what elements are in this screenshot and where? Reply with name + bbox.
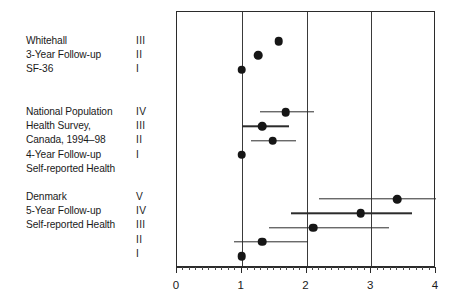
study-label-text: Whitehall xyxy=(26,34,67,48)
x-tick-label: 2 xyxy=(302,279,308,291)
study-label-group: WhitehallIII3-Year Follow-upIISF-36I xyxy=(0,34,176,77)
study-label-text: SF-36 xyxy=(26,62,53,76)
x-tick-minor xyxy=(422,267,423,270)
level-numeral: I xyxy=(136,247,139,261)
level-numeral: I xyxy=(136,148,139,162)
x-axis: 01234 xyxy=(176,267,435,307)
x-tick-minor xyxy=(325,267,326,270)
estimate-marker xyxy=(237,151,246,160)
x-tick-minor xyxy=(396,267,397,270)
level-numeral: III xyxy=(136,119,145,133)
gridline-x-1 xyxy=(242,12,243,266)
level-numeral: IV xyxy=(136,105,146,119)
plot-area xyxy=(176,11,435,267)
confidence-interval-bar xyxy=(269,227,389,228)
level-numeral: V xyxy=(136,190,143,204)
x-tick-minor xyxy=(208,267,209,270)
estimate-marker xyxy=(393,195,402,204)
x-tick-minor xyxy=(403,267,404,270)
x-tick-minor xyxy=(377,267,378,270)
x-tick-major xyxy=(176,267,177,273)
estimate-marker xyxy=(309,223,318,232)
x-tick-minor xyxy=(293,267,294,270)
level-numeral: II xyxy=(136,133,142,147)
level-numeral: II xyxy=(136,48,142,62)
estimate-marker xyxy=(237,252,246,261)
forest-plot-figure: WhitehallIII3-Year Follow-upIISF-36INati… xyxy=(0,0,455,307)
x-tick-minor xyxy=(195,267,196,270)
x-tick-minor xyxy=(247,267,248,270)
estimate-marker xyxy=(269,136,278,145)
x-tick-major xyxy=(241,267,242,273)
x-tick-minor xyxy=(280,267,281,270)
study-label-text: Self-reported Health xyxy=(26,162,115,176)
estimate-marker xyxy=(274,37,283,46)
x-tick-minor xyxy=(338,267,339,270)
x-tick-minor xyxy=(260,267,261,270)
estimate-marker xyxy=(281,108,290,117)
level-numeral: III xyxy=(136,34,145,48)
x-tick-minor xyxy=(357,267,358,270)
x-tick-major xyxy=(370,267,371,273)
x-tick-minor xyxy=(189,267,190,270)
study-label-text: Health Survey, xyxy=(26,119,91,133)
x-tick-label: 3 xyxy=(367,279,373,291)
study-label-row: Self-reported Health xyxy=(0,162,176,176)
study-label-row: 3-Year Follow-upII xyxy=(0,48,176,62)
study-label-text: 4-Year Follow-up xyxy=(26,148,101,162)
study-label-text: 5-Year Follow-up xyxy=(26,204,101,218)
study-label-row: SF-36I xyxy=(0,62,176,76)
study-label-row: Health Survey,III xyxy=(0,119,176,133)
x-tick-label: 0 xyxy=(173,279,179,291)
x-tick-minor xyxy=(286,267,287,270)
x-tick-minor xyxy=(273,267,274,270)
estimate-marker xyxy=(237,65,246,74)
study-label-text: Denmark xyxy=(26,190,67,204)
estimate-marker xyxy=(258,122,267,131)
study-label-text: 3-Year Follow-up xyxy=(26,48,101,62)
x-tick-minor xyxy=(351,267,352,270)
x-tick-major xyxy=(306,267,307,273)
x-tick-minor xyxy=(318,267,319,270)
x-tick-minor xyxy=(234,267,235,270)
level-numeral: I xyxy=(136,62,139,76)
x-tick-minor xyxy=(416,267,417,270)
x-tick-minor xyxy=(429,267,430,270)
x-tick-minor xyxy=(383,267,384,270)
x-tick-minor xyxy=(409,267,410,270)
estimate-marker xyxy=(254,51,263,60)
study-label-text: Canada, 1994–98 xyxy=(26,133,106,147)
confidence-interval-bar xyxy=(234,241,308,242)
level-numeral: IV xyxy=(136,204,146,218)
study-label-text: National Population xyxy=(26,105,112,119)
x-tick-minor xyxy=(254,267,255,270)
level-numeral: II xyxy=(136,233,142,247)
study-label-row: 4-Year Follow-upI xyxy=(0,148,176,162)
x-tick-label: 1 xyxy=(238,279,244,291)
x-tick-label: 4 xyxy=(432,279,438,291)
x-tick-minor xyxy=(221,267,222,270)
estimate-marker xyxy=(258,238,267,247)
study-label-row: 5-Year Follow-upIV xyxy=(0,204,176,218)
x-tick-minor xyxy=(182,267,183,270)
study-label-row: Self-reported HealthIII xyxy=(0,218,176,232)
x-tick-minor xyxy=(364,267,365,270)
confidence-interval-bar xyxy=(319,198,436,199)
estimate-marker xyxy=(357,209,366,218)
study-label-row: Canada, 1994–98II xyxy=(0,133,176,147)
confidence-interval-bar xyxy=(291,213,412,214)
x-tick-major xyxy=(435,267,436,273)
x-tick-minor xyxy=(267,267,268,270)
x-tick-minor xyxy=(202,267,203,270)
study-label-row: WhitehallIII xyxy=(0,34,176,48)
study-label-text: Self-reported Health xyxy=(26,218,115,232)
study-label-row: DenmarkV xyxy=(0,190,176,204)
study-label-group: National PopulationIVHealth Survey,IIICa… xyxy=(0,105,176,176)
x-tick-minor xyxy=(331,267,332,270)
x-tick-minor xyxy=(312,267,313,270)
x-tick-minor xyxy=(344,267,345,270)
study-label-row: I xyxy=(0,247,176,261)
study-label-row: II xyxy=(0,233,176,247)
level-numeral: III xyxy=(136,218,145,232)
study-label-group: DenmarkV5-Year Follow-upIVSelf-reported … xyxy=(0,190,176,261)
